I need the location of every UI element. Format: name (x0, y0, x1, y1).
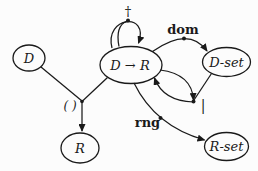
restrict-op-label: | (201, 97, 206, 114)
node-map-label: D → R (109, 58, 150, 73)
edge-apply-from-map (83, 78, 108, 102)
edge-override-loop-arrow (111, 22, 140, 48)
edge-restrict-in-arrow (160, 70, 194, 100)
dom-op-label: dom (167, 22, 199, 37)
dom-op-dot (182, 37, 186, 41)
override-op-label: † (125, 4, 132, 19)
apply-op-label: ( ) (63, 99, 76, 113)
restrict-junction-dot (192, 100, 196, 104)
edge-dom-arc-arrow (153, 39, 208, 52)
node-d-set-label: D-set (208, 55, 244, 70)
edge-restrict-out-arrow (155, 78, 194, 102)
node-d: D (13, 45, 45, 71)
apply-junction-dot (80, 100, 84, 104)
rng-op-label: rng (135, 115, 160, 130)
node-r-set: R-set (205, 133, 249, 161)
node-d-label: D (23, 51, 35, 66)
node-r: R (61, 133, 99, 163)
node-r-label: R (74, 141, 85, 156)
node-d-set: D-set (203, 48, 251, 77)
diagram-canvas: ( ) † dom | rng D D → R D-set (0, 0, 258, 171)
node-r-set-label: R-set (209, 139, 245, 154)
map-operations-diagram: ( ) † dom | rng D D → R D-set (0, 0, 258, 171)
edge-apply-from-d (41, 67, 82, 101)
edge-rng-arc-arrow (134, 83, 205, 140)
override-op-dot (126, 19, 130, 23)
node-map: D → R (100, 47, 162, 84)
